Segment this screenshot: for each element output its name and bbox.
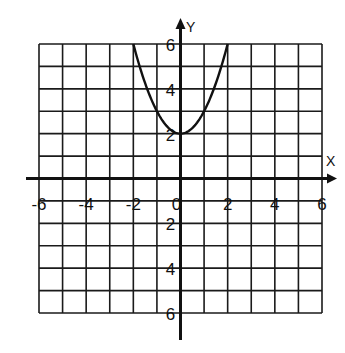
x-tick-label: -2 bbox=[126, 195, 141, 214]
graph: -6-4-20246 642246 X Y bbox=[0, 0, 345, 353]
x-tick-label: 4 bbox=[270, 195, 279, 214]
y-tick-label: 4 bbox=[166, 260, 175, 279]
x-tick-label: 2 bbox=[223, 195, 232, 214]
y-tick-label: 2 bbox=[166, 126, 175, 145]
y-tick-label: 2 bbox=[166, 215, 175, 234]
y-tick-label: 6 bbox=[166, 36, 175, 55]
y-tick-label: 6 bbox=[166, 305, 175, 324]
x-tick-label: 6 bbox=[317, 195, 326, 214]
y-axis-label: Y bbox=[186, 19, 196, 35]
x-tick-label: -4 bbox=[79, 195, 94, 214]
y-tick-label: 4 bbox=[166, 81, 175, 100]
x-tick-labels: -6-4-20246 bbox=[31, 195, 326, 214]
y-axis-arrow-icon bbox=[176, 18, 186, 29]
x-axis-label: X bbox=[326, 153, 336, 169]
x-tick-label: 0 bbox=[172, 195, 181, 214]
x-axis-arrow-icon bbox=[327, 174, 337, 184]
x-tick-label: -6 bbox=[31, 195, 46, 214]
